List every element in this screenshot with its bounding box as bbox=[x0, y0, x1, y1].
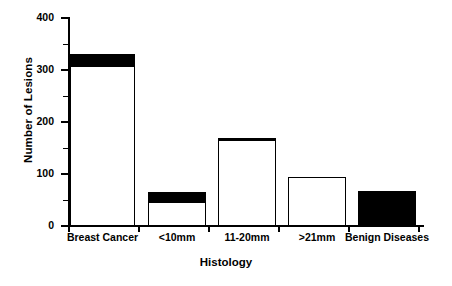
y-tick-minor bbox=[63, 96, 68, 97]
y-tick-label: 100 bbox=[0, 168, 54, 178]
y-tick-label: 300 bbox=[0, 64, 54, 74]
bar-segment-black bbox=[218, 138, 276, 141]
bar bbox=[218, 138, 276, 226]
y-tick-minor bbox=[63, 44, 68, 45]
bar-segment-white bbox=[148, 202, 206, 226]
bar-segment-black bbox=[358, 191, 416, 226]
x-axis-title: Histology bbox=[0, 256, 452, 268]
bar bbox=[358, 191, 416, 226]
y-tick-major bbox=[61, 225, 68, 227]
y-tick-label: 200 bbox=[0, 116, 54, 126]
y-tick-minor bbox=[63, 148, 68, 149]
bar-segment-white bbox=[70, 66, 135, 226]
bar-chart-figure: Number of Lesions 0100200300400 Breast C… bbox=[0, 0, 452, 286]
y-tick-major bbox=[61, 173, 68, 175]
bar-segment-black bbox=[70, 54, 135, 67]
y-tick-major bbox=[61, 69, 68, 71]
bar-segment-white bbox=[218, 139, 276, 226]
bar-segment-black bbox=[148, 192, 206, 202]
bar bbox=[288, 178, 346, 226]
y-tick-major bbox=[61, 121, 68, 123]
bar bbox=[148, 192, 206, 226]
x-category-label: Benign Diseases bbox=[327, 231, 447, 243]
y-tick-minor bbox=[63, 200, 68, 201]
bar bbox=[70, 54, 135, 226]
y-axis-title: Number of Lesions bbox=[22, 30, 34, 190]
y-tick-label: 0 bbox=[0, 220, 54, 230]
y-tick-label: 400 bbox=[0, 12, 54, 22]
bar-segment-white bbox=[288, 177, 346, 226]
y-tick-major bbox=[61, 17, 68, 19]
